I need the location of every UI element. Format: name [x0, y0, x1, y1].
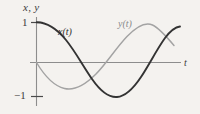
sinusoid-figure: x, y t x(t) y(t) 1 −1 — [0, 0, 200, 114]
curve-label-x-of-t: x(t) — [58, 27, 72, 37]
x-axis-label: t — [184, 58, 187, 68]
curve-label-y-of-t: y(t) — [118, 19, 132, 29]
tick-label-negative-one: −1 — [14, 90, 26, 101]
plot-canvas — [0, 0, 200, 114]
y-axis-label: x, y — [23, 2, 39, 13]
tick-label-positive-one: 1 — [22, 17, 28, 28]
